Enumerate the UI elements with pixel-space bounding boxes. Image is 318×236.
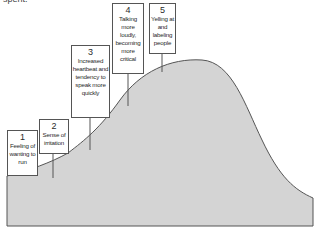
step-text: Increased heartbeat and tendency to spea… — [73, 57, 109, 96]
step-text: Yelling at and labeling people — [151, 15, 174, 46]
step-text: Feeling of wanting to run — [9, 142, 35, 165]
step-text: Talking more loudly, becoming more criti… — [115, 15, 140, 62]
step-box-1: 1 Feeling of wanting to run — [7, 130, 38, 176]
step-number: 5 — [150, 5, 175, 15]
step-number: 3 — [72, 47, 109, 57]
step-box-4: 4 Talking more loudly, becoming more cri… — [112, 3, 144, 74]
step-box-5: 5 Yelling at and labeling people — [149, 3, 176, 54]
step-number: 2 — [40, 121, 68, 131]
step-number: 4 — [113, 5, 143, 15]
anger-escalation-diagram: spent. 1 Feeling of wanting to run 2 Sen… — [0, 0, 318, 236]
step-number: 1 — [8, 132, 37, 142]
step-box-2: 2 Sense of irritation — [39, 119, 69, 154]
step-text: Sense of irritation — [43, 131, 66, 146]
step-box-3: 3 Increased heartbeat and tendency to sp… — [71, 45, 110, 118]
